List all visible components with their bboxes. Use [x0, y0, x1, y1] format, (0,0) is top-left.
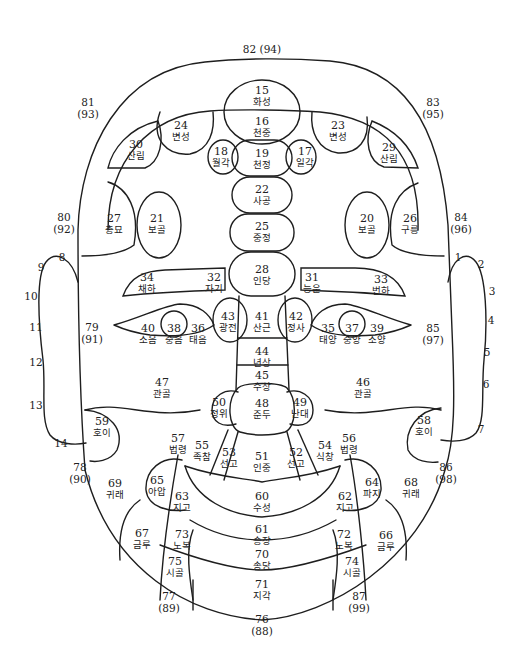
- region-number: 57: [169, 433, 187, 445]
- region-number: 40: [139, 323, 157, 335]
- region-label-38: 38중음: [165, 323, 183, 345]
- region-name: 광전: [219, 323, 237, 333]
- region-label-56: 56법령: [340, 433, 358, 455]
- edge-label-79: 79(91): [81, 322, 103, 345]
- region-number: 62: [336, 491, 354, 503]
- region-label-28: 28인당: [253, 264, 271, 286]
- region-name: 노복: [173, 541, 191, 551]
- region-name: 산근: [253, 323, 271, 333]
- right-ear-point-3: 3: [489, 286, 496, 298]
- region-name: 월각: [212, 158, 230, 168]
- region-number: 58: [415, 415, 433, 427]
- region-label-18: 18월각: [212, 146, 230, 168]
- region-number: 33: [372, 274, 390, 286]
- region-label-34: 34채하: [138, 272, 156, 294]
- region-name: 변성: [172, 132, 190, 142]
- region-number: 21: [148, 213, 166, 225]
- region-label-50: 50정위: [210, 397, 228, 419]
- region-number: 25: [253, 221, 271, 233]
- region-label-48: 48준두: [253, 398, 271, 420]
- region-name: 화성: [253, 97, 271, 107]
- region-number: 70: [253, 549, 271, 561]
- region-name: 선고: [220, 459, 238, 469]
- region-number: 61: [253, 524, 271, 536]
- region-label-20: 20보골: [358, 213, 376, 235]
- region-number: 29: [380, 142, 398, 154]
- region-name: 법령: [169, 445, 187, 455]
- region-number: 49: [291, 397, 309, 409]
- region-number: 37: [343, 323, 361, 335]
- region-name: 년상: [253, 358, 271, 368]
- region-number: 72: [335, 529, 353, 541]
- region-number: 31: [303, 272, 321, 284]
- region-number: 28: [253, 264, 271, 276]
- edge-label-86: 86(98): [435, 462, 457, 485]
- region-label-52: 52선고: [287, 447, 305, 469]
- region-label-54: 54식창: [316, 440, 334, 462]
- region-number: 19: [253, 148, 271, 160]
- region-number: 73: [173, 529, 191, 541]
- region-name: 지고: [336, 503, 354, 513]
- region-label-17: 17일각: [296, 146, 314, 168]
- region-name: 족참: [193, 452, 211, 462]
- region-number: 51: [253, 451, 271, 463]
- region-label-22: 22사공: [253, 184, 271, 206]
- region-name: 인중: [253, 463, 271, 473]
- region-label-47: 47관골: [153, 377, 171, 399]
- region-label-37: 37중양: [343, 323, 361, 345]
- region-label-67: 67금루: [133, 528, 151, 550]
- region-name: 호이: [415, 427, 433, 437]
- region-name: 시골: [166, 568, 184, 578]
- region-label-45: 45수상: [253, 370, 271, 392]
- region-number: 75: [166, 556, 184, 568]
- region-name: 금루: [377, 542, 395, 552]
- region-name: 산림: [127, 151, 145, 161]
- region-name: 천중: [253, 128, 271, 138]
- region-name: 법령: [340, 445, 358, 455]
- region-number: 56: [340, 433, 358, 445]
- region-name: 천정: [253, 160, 271, 170]
- region-name: 식창: [316, 452, 334, 462]
- region-name: 총묘: [105, 225, 123, 235]
- region-label-42: 42정사: [287, 311, 305, 333]
- region-label-19: 19천정: [253, 148, 271, 170]
- region-name: 중정: [253, 233, 271, 243]
- region-label-39: 39소양: [368, 323, 386, 345]
- right-ear: [441, 256, 486, 441]
- edge-label-85: 85(97): [422, 323, 444, 346]
- edge-label-77: 77(89): [158, 591, 180, 614]
- region-name: 변성: [329, 132, 347, 142]
- region-label-32: 32자기: [205, 272, 223, 294]
- edge-label-87: 87(99): [348, 591, 370, 614]
- left-ear-point-8: 8: [59, 252, 66, 264]
- region-name: 보골: [358, 225, 376, 235]
- region-name: 중양: [343, 335, 361, 345]
- region-name: 소양: [368, 335, 386, 345]
- region-number: 60: [253, 491, 271, 503]
- region-number: 39: [368, 323, 386, 335]
- region-name: 사공: [253, 196, 271, 206]
- edge-label-81: 81(93): [77, 97, 99, 120]
- region-number: 71: [253, 579, 271, 591]
- region-number: 17: [296, 146, 314, 158]
- region-label-53: 53선고: [220, 447, 238, 469]
- region-number: 32: [205, 272, 223, 284]
- region-name: 능운: [303, 284, 321, 294]
- region-number: 59: [93, 416, 111, 428]
- region-label-59: 59호이: [93, 416, 111, 438]
- region-name: 준두: [253, 410, 271, 420]
- region-name: 자기: [205, 284, 223, 294]
- region-label-63: 63지고: [173, 491, 191, 513]
- face-reading-diagram: 15화성16천중19천정18월각17일각22사공25중정28인당24변성23변성…: [0, 0, 522, 666]
- nose-bridge-left: [236, 296, 239, 390]
- region-name: 귀래: [106, 490, 124, 500]
- region-name: 호이: [93, 428, 111, 438]
- region-name: 수상: [253, 382, 271, 392]
- region-name: 번하: [372, 286, 390, 296]
- region-number: 18: [212, 146, 230, 158]
- region-name: 태양: [319, 335, 337, 345]
- region-number: 63: [173, 491, 191, 503]
- region-name: 태음: [189, 335, 207, 345]
- region-name: 지고: [173, 503, 191, 513]
- region-name: 파지: [363, 489, 381, 499]
